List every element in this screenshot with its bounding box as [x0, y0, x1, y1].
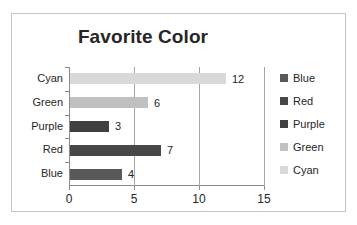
bar-value-label: 7 [167, 144, 173, 156]
legend-item[interactable]: Red [280, 89, 350, 112]
legend-swatch-icon [280, 120, 288, 128]
bar[interactable] [70, 97, 148, 108]
bar-value-label: 4 [128, 168, 134, 180]
x-axis-tick-label: 10 [192, 192, 205, 206]
y-axis-tick [65, 138, 69, 139]
x-axis-tick [69, 186, 70, 190]
bar-value-label: 12 [232, 73, 244, 85]
bar-value-label: 3 [115, 120, 121, 132]
chart-title: Favorite Color [12, 26, 274, 48]
legend-item[interactable]: Purple [280, 112, 350, 135]
legend-swatch-icon [280, 166, 288, 174]
bar[interactable] [70, 121, 109, 132]
legend-label: Cyan [293, 164, 319, 176]
y-axis-tick [65, 91, 69, 92]
x-axis-tick-label: 5 [131, 192, 138, 206]
y-axis-tick [65, 115, 69, 116]
x-axis-tick [134, 186, 135, 190]
bar-value-label: 6 [154, 97, 160, 109]
legend-item[interactable]: Green [280, 135, 350, 158]
y-axis-category-label: Red [13, 138, 63, 162]
y-axis-category-label: Purple [13, 115, 63, 139]
legend-label: Blue [293, 72, 315, 84]
legend-label: Red [293, 95, 313, 107]
bar-row[interactable]: Cyan12 [70, 67, 244, 91]
gridline [264, 67, 265, 186]
legend-item[interactable]: Blue [280, 66, 350, 89]
x-axis-tick-label: 15 [257, 192, 270, 206]
y-axis-tick [65, 162, 69, 163]
x-axis-tick [264, 186, 265, 190]
bar[interactable] [70, 73, 226, 84]
y-axis-category-label: Cyan [13, 67, 63, 91]
legend-item[interactable]: Cyan [280, 158, 350, 181]
bar-row[interactable]: Purple3 [70, 115, 121, 139]
x-axis-tick [199, 186, 200, 190]
plot-area: 051015 Blue4Red7Purple3Green6Cyan12 [69, 67, 264, 186]
y-axis-category-label: Blue [13, 162, 63, 186]
chart-legend: BlueRedPurpleGreenCyan [280, 66, 350, 181]
legend-swatch-icon [280, 74, 288, 82]
legend-swatch-icon [280, 143, 288, 151]
x-axis-tick-label: 0 [66, 192, 73, 206]
legend-label: Green [293, 141, 324, 153]
bar[interactable] [70, 145, 161, 156]
bar-row[interactable]: Blue4 [70, 162, 134, 186]
legend-label: Purple [293, 118, 325, 130]
bar-row[interactable]: Red7 [70, 138, 173, 162]
legend-swatch-icon [280, 97, 288, 105]
chart-frame: Favorite Color 051015 Blue4Red7Purple3Gr… [11, 13, 346, 212]
bar-row[interactable]: Green6 [70, 91, 160, 115]
y-axis-tick [65, 67, 69, 68]
bar[interactable] [70, 169, 122, 180]
y-axis-category-label: Green [13, 91, 63, 115]
